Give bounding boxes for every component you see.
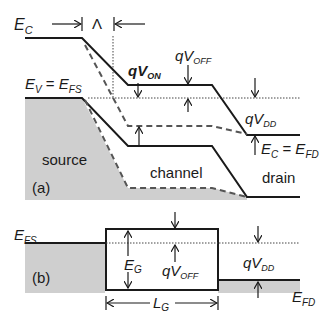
gate-box xyxy=(106,229,218,290)
panel-a: EC Λ EV = EFS qVON qVOFF qVDD EC = EFD s… xyxy=(14,15,319,200)
panel-b-tag: (b) xyxy=(32,269,50,286)
panel-b: EFS (b) EG qVOFF qVDD EFD LG xyxy=(14,212,315,313)
efd-label: EFD xyxy=(292,288,315,308)
lg-label: LG xyxy=(153,294,169,313)
panel-a-tag: (a) xyxy=(32,179,50,196)
efs-label: EFS xyxy=(14,226,37,246)
ec-efd-label: EC = EFD xyxy=(261,140,319,160)
source-label: source xyxy=(42,151,87,168)
qvon-label: qVON xyxy=(128,62,161,81)
qvdd-b-label: qVDD xyxy=(243,254,275,273)
qvdd-label: qVDD xyxy=(245,110,277,129)
ec-dashed-top xyxy=(85,45,247,134)
ev-efs-label: EV = EFS xyxy=(25,75,82,95)
drain-gray-block xyxy=(218,280,300,293)
qvoff-label: qVOFF xyxy=(175,47,212,66)
lambda-label: Λ xyxy=(92,15,102,32)
channel-label: channel xyxy=(150,164,203,181)
drain-label: drain xyxy=(262,169,295,186)
band-diagram: EC Λ EV = EFS qVON qVOFF qVDD EC = EFD s… xyxy=(0,0,327,328)
ec-label: EC xyxy=(14,16,33,36)
